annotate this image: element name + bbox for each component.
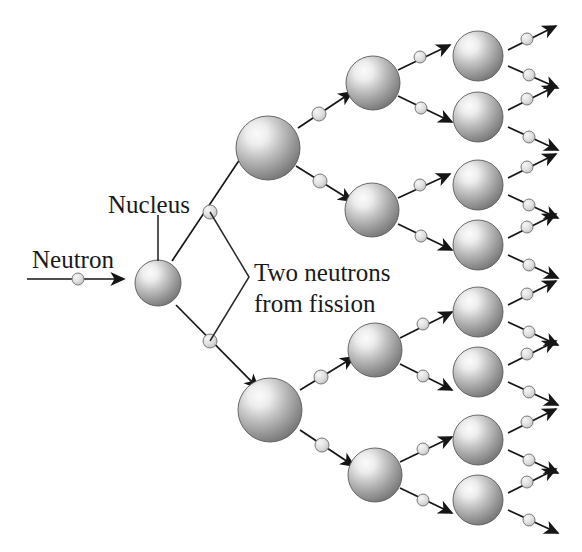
nucleus-gen4-7 [453, 415, 503, 465]
incoming-neutron-particle [72, 273, 84, 285]
neutron-particle [521, 93, 533, 105]
emitted-neutron-27 [508, 409, 556, 433]
nucleus-gen4-1 [453, 31, 503, 81]
nucleus-sphere [453, 92, 503, 142]
neutron-particle [414, 179, 426, 191]
nucleus-sphere [135, 260, 181, 306]
nucleus-sphere [453, 347, 503, 397]
nucleus-gen3-3 [348, 323, 402, 377]
neutron-particle [313, 174, 327, 188]
nucleus-sphere [348, 323, 402, 377]
nucleus-gen3-4 [348, 448, 402, 502]
emitted-neutron-28 [508, 450, 558, 473]
nucleus-sphere [346, 56, 400, 110]
emitted-neutron-9 [398, 174, 450, 198]
neutron-particle [521, 416, 533, 428]
neutron-particle [523, 131, 535, 143]
neutron-particle [417, 370, 429, 382]
emitted-neutron-26 [508, 382, 558, 405]
nucleus-sphere [453, 220, 503, 270]
emitted-neutron-17 [508, 86, 556, 110]
emitted-neutron-25 [508, 341, 556, 365]
neutron-particle [523, 514, 535, 526]
neutron-particle [521, 161, 533, 173]
nucleus-gen2-2 [238, 378, 302, 442]
emitted-neutron-23 [508, 281, 556, 305]
emitted-neutron-5 [300, 357, 354, 390]
nucleus-gen4-6 [453, 347, 503, 397]
nucleus-sphere [453, 287, 503, 337]
neutron-particle [417, 443, 429, 455]
nucleus-gen4-3 [453, 160, 503, 210]
nucleus-sphere [348, 448, 402, 502]
fission-chain-reaction-diagram: NeutronNucleusTwo neutronsfrom fission [0, 0, 582, 552]
emitted-neutron-2 [176, 305, 258, 388]
nucleus-sphere [453, 160, 503, 210]
neutron-particle [417, 318, 429, 330]
neutron-particle [415, 230, 427, 242]
emitted-neutron-10 [398, 224, 452, 250]
nucleus-gen3-2 [345, 183, 399, 237]
nucleus-gen4-8 [453, 475, 503, 525]
nucleus-sphere [238, 378, 302, 442]
neutron-particle [521, 288, 533, 300]
neutron-particle [523, 199, 535, 211]
nucleus-gen3-1 [346, 56, 400, 110]
emitted-neutron-30 [508, 510, 558, 533]
emitted-neutron-13 [400, 437, 452, 462]
neutron-particle [523, 454, 535, 466]
emitted-neutron-22 [508, 255, 558, 278]
nucleus-gen4-4 [453, 220, 503, 270]
emitted-neutron-14 [400, 488, 452, 513]
neutron-particle [521, 476, 533, 488]
emitted-neutron-11 [400, 312, 452, 338]
neutron-arrow [176, 305, 258, 388]
neutron-particle [523, 259, 535, 271]
emitted-neutron-18 [508, 127, 558, 150]
nucleus-sphere [453, 475, 503, 525]
two-neutrons-label-line2: from fission [254, 290, 376, 317]
neutron-particle [523, 69, 535, 81]
emitted-neutron-24 [508, 322, 558, 345]
emitted-neutron-12 [400, 364, 452, 390]
emitted-neutron-29 [508, 469, 556, 493]
neutron-particle [521, 221, 533, 233]
nucleus-gen4-2 [453, 92, 503, 142]
two-neutrons-label-line1: Two neutrons [254, 259, 390, 286]
nucleus-sphere [453, 415, 503, 465]
neutron-particle [415, 102, 427, 114]
emitted-neutron-4 [296, 166, 352, 201]
emitted-neutron-16 [508, 66, 558, 88]
two-neutrons-callout-bracket [210, 212, 249, 341]
emitted-neutron-21 [508, 214, 556, 238]
emitted-neutron-20 [508, 195, 558, 218]
emitted-neutron-3 [298, 92, 352, 128]
nucleus-sphere [236, 116, 300, 180]
nucleus-sphere [345, 183, 399, 237]
neutron-particle [521, 33, 533, 45]
nucleus-gen1-1 [135, 260, 181, 306]
nucleus-label: Nucleus [108, 191, 190, 218]
emitted-neutron-19 [508, 154, 556, 178]
neutron-particle [312, 107, 326, 121]
emitted-neutron-6 [300, 430, 354, 466]
neutron-particle [523, 386, 535, 398]
emitted-neutron-8 [398, 96, 452, 122]
nucleus-sphere [453, 31, 503, 81]
neutron-particle [314, 370, 328, 384]
incoming-neutron [27, 273, 124, 285]
neutron-particle [523, 326, 535, 338]
emitted-neutron-15 [508, 26, 556, 50]
fission-diagram-canvas: NeutronNucleusTwo neutronsfrom fission [0, 0, 582, 552]
emitted-neutron-7 [398, 45, 450, 70]
neutron-label: Neutron [32, 246, 114, 273]
nucleus-gen2-1 [236, 116, 300, 180]
neutron-particle [414, 51, 426, 63]
nucleus-gen4-5 [453, 287, 503, 337]
neutron-particle [315, 438, 329, 452]
neutron-particle [521, 348, 533, 360]
neutron-particle [417, 494, 429, 506]
